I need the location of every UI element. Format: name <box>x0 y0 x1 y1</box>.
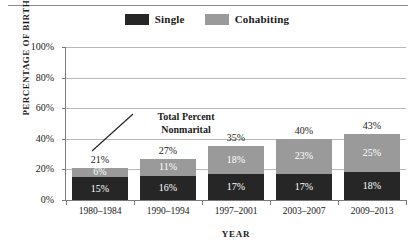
y-tick-label: 20% <box>8 164 54 174</box>
bar-slot: 25%18%43% <box>338 47 406 200</box>
stacked-bar[interactable]: 11%16% <box>140 159 196 200</box>
y-tick-label: 60% <box>8 103 54 113</box>
bar-segment-value: 16% <box>159 183 177 193</box>
x-tick-mark <box>406 200 407 205</box>
annotation-line-1: Total Percent <box>134 110 238 123</box>
legend-label: Single <box>155 14 185 25</box>
bar-segment-single[interactable]: 15% <box>72 177 128 200</box>
bar-segment-value: 18% <box>363 181 381 191</box>
bar-segment-value: 15% <box>91 184 109 194</box>
x-axis-label: 2009–2013 <box>338 207 406 217</box>
x-axis-label: 1997–2001 <box>202 207 270 217</box>
x-tick-mark <box>270 200 271 205</box>
bar-slot: 23%17%40% <box>270 47 338 200</box>
stacked-bar[interactable]: 23%17% <box>276 139 332 200</box>
top-divider-rule <box>8 5 408 6</box>
x-axis-category-labels: 1980–19841990–19941997–20012003–20072009… <box>66 207 406 217</box>
x-tick-mark <box>338 200 339 205</box>
bar-segment-cohabiting[interactable]: 11% <box>140 159 196 176</box>
chart-figure: SingleCohabiting PERCENTAGE OF BIRTHS 0%… <box>0 0 414 246</box>
legend-swatch-cohabiting <box>205 14 229 25</box>
bar-segment-value: 17% <box>295 182 313 192</box>
bar-segment-value: 17% <box>227 182 245 192</box>
y-tick-label: 40% <box>8 134 54 144</box>
bar-segment-cohabiting[interactable]: 18% <box>208 146 264 174</box>
bar-segment-single[interactable]: 17% <box>276 174 332 200</box>
bar-segment-value: 23% <box>295 151 313 161</box>
bar-total-label: 43% <box>342 121 402 131</box>
bar-segment-value: 11% <box>159 162 177 172</box>
legend-label: Cohabiting <box>235 14 290 25</box>
bar-segment-single[interactable]: 16% <box>140 176 196 200</box>
bar-segment-value: 6% <box>93 167 106 177</box>
y-tick-label: 0% <box>8 195 54 205</box>
x-tick-mark <box>66 200 67 205</box>
x-tick-mark <box>202 200 203 205</box>
stacked-bar[interactable]: 6%15% <box>72 168 128 200</box>
x-tick-mark <box>134 200 135 205</box>
bar-segment-single[interactable]: 17% <box>208 174 264 200</box>
gridline-0 <box>66 200 406 201</box>
annotation-total-percent-nonmarital: Total Percent Nonmarital <box>134 110 238 136</box>
chart-legend: SingleCohabiting <box>0 14 414 25</box>
x-axis-title: YEAR <box>66 229 406 239</box>
bar-total-label: 40% <box>274 126 334 136</box>
y-tick-label: 100% <box>8 42 54 52</box>
legend-swatch-single <box>125 14 149 25</box>
bar-total-label: 27% <box>138 146 198 156</box>
bar-segment-single[interactable]: 18% <box>344 172 400 200</box>
x-axis-label: 2003–2007 <box>270 207 338 217</box>
bar-segment-cohabiting[interactable]: 25% <box>344 134 400 172</box>
bar-segment-cohabiting[interactable]: 6% <box>72 168 128 177</box>
x-axis-label: 1980–1984 <box>66 207 134 217</box>
legend-entry-single[interactable]: Single <box>125 14 185 25</box>
annotation-leader-line <box>88 110 138 155</box>
bar-segment-value: 25% <box>363 148 381 158</box>
y-tick-label: 80% <box>8 73 54 83</box>
annotation-line-2: Nonmarital <box>134 123 238 136</box>
bar-segment-cohabiting[interactable]: 23% <box>276 139 332 174</box>
bar-segment-value: 18% <box>227 155 245 165</box>
x-axis-label: 1990–1994 <box>134 207 202 217</box>
stacked-bar[interactable]: 18%17% <box>208 146 264 200</box>
stacked-bar[interactable]: 25%18% <box>344 134 400 200</box>
bar-total-label: 21% <box>70 155 130 165</box>
legend-entry-cohabiting[interactable]: Cohabiting <box>205 14 290 25</box>
